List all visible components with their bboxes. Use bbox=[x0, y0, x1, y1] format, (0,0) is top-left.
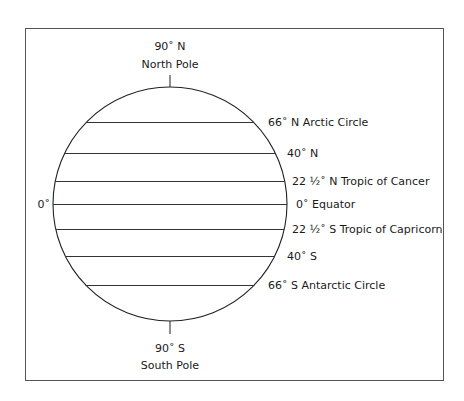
latitude-label-capricorn: 22 ½˚ S Tropic of Capricorn bbox=[292, 223, 443, 236]
latitude-label-equator: 0˚ Equator bbox=[296, 198, 356, 211]
latitude-label-40n: 40˚ N bbox=[287, 147, 318, 160]
latitude-label-antarctic: 66˚ S Antarctic Circle bbox=[268, 279, 385, 292]
south-pole-degree: 90˚ S bbox=[155, 342, 185, 355]
latitude-label-arctic: 66˚ N Arctic Circle bbox=[268, 116, 369, 129]
latitude-label-40s: 40˚ S bbox=[287, 250, 317, 263]
equator-left-label: 0˚ bbox=[38, 198, 51, 211]
north-pole-name: North Pole bbox=[141, 58, 198, 71]
south-pole-name: South Pole bbox=[141, 359, 199, 372]
latitude-diagram: 90˚ N North Pole 90˚ S South Pole 0˚ 66˚… bbox=[0, 0, 464, 401]
latitude-label-cancer: 22 ½˚ N Tropic of Cancer bbox=[292, 175, 430, 188]
latitude-lines bbox=[53, 123, 287, 286]
north-pole-degree: 90˚ N bbox=[154, 40, 185, 53]
